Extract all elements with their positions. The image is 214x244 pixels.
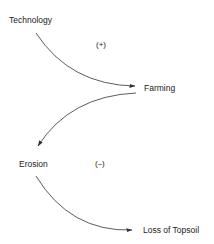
positive-sign-label: (+) xyxy=(96,41,106,49)
negative-sign-label: (–) xyxy=(95,160,105,168)
arrow-technology-to-farming xyxy=(36,33,135,86)
diagram-arrows xyxy=(0,0,214,244)
arrow-erosion-to-topsoil xyxy=(36,176,132,230)
node-erosion: Erosion xyxy=(19,160,48,169)
arrow-farming-to-erosion xyxy=(38,93,136,146)
node-farming: Farming xyxy=(144,84,175,93)
node-loss-of-topsoil: Loss of Topsoil xyxy=(143,226,199,235)
node-technology: Technology xyxy=(9,16,52,25)
